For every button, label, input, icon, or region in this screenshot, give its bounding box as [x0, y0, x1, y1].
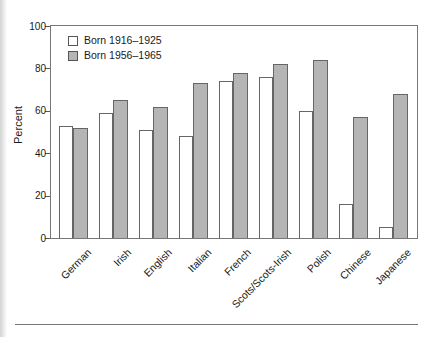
bar-irish-born-1956-1965 — [113, 100, 128, 238]
x-label-japanese: Japanese — [373, 246, 414, 287]
y-tick-label-40: 40 — [18, 147, 46, 160]
bar-french-born-1956-1965 — [233, 73, 248, 238]
bar-italian-born-1956-1965 — [193, 83, 208, 238]
bar-polish-born-1916-1925 — [299, 111, 314, 238]
bar-chinese-born-1916-1925 — [339, 204, 354, 238]
bar-chinese-born-1956-1965 — [353, 117, 368, 238]
bar-polish-born-1956-1965 — [313, 60, 328, 238]
y-tick-label-0: 0 — [18, 232, 46, 245]
y-tick-label-60: 60 — [18, 104, 46, 117]
bar-japanese-born-1916-1925 — [379, 227, 394, 238]
y-tick-label-80: 80 — [18, 62, 46, 75]
bar-italian-born-1916-1925 — [179, 136, 194, 238]
x-label-italian: Italian — [185, 246, 213, 274]
x-label-english: English — [141, 246, 174, 279]
bar-japanese-born-1956-1965 — [393, 94, 408, 238]
y-tick-label-20: 20 — [18, 189, 46, 202]
bottom-rule — [15, 324, 418, 325]
figure: Percent Born 1916–1925Born 1956–1965 020… — [0, 0, 436, 337]
x-label-irish: Irish — [111, 246, 134, 269]
x-label-chinese: Chinese — [338, 246, 374, 282]
bar-scots-scots-irish-born-1916-1925 — [259, 77, 274, 238]
bar-french-born-1916-1925 — [219, 81, 234, 238]
x-label-french: French — [222, 246, 254, 278]
scan-edge-shadow — [0, 0, 7, 337]
bar-german-born-1956-1965 — [73, 128, 88, 238]
x-label-german: German — [58, 246, 93, 281]
bar-english-born-1916-1925 — [139, 130, 154, 238]
x-label-polish: Polish — [305, 246, 334, 275]
plot-area: Born 1916–1925Born 1956–1965 — [50, 25, 418, 239]
bar-irish-born-1916-1925 — [99, 113, 114, 238]
bar-scots-scots-irish-born-1956-1965 — [273, 64, 288, 238]
y-tick-label-100: 100 — [18, 20, 46, 33]
bar-english-born-1956-1965 — [153, 107, 168, 238]
bars-layer — [51, 26, 417, 238]
bar-german-born-1916-1925 — [59, 126, 74, 238]
